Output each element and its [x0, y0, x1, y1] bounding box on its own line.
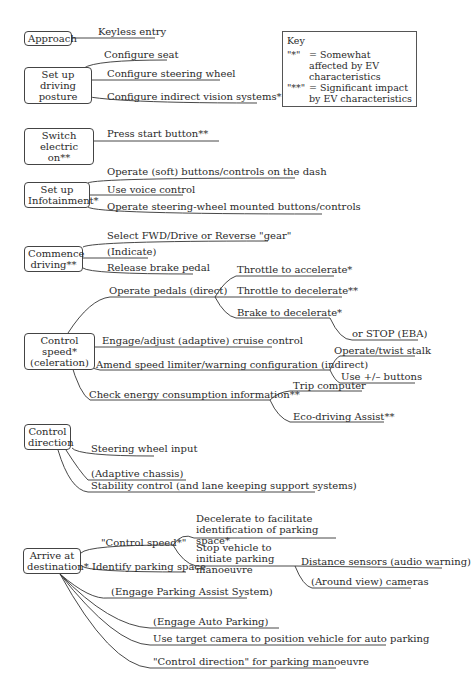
- subtask: (Engage Auto Parking): [153, 616, 268, 627]
- subtask: Throttle to decelerate**: [237, 285, 358, 296]
- subtask: (Indicate): [107, 246, 156, 257]
- subtask: Use voice control: [107, 184, 195, 195]
- subtask: Operate (soft) buttons/controls on the d…: [107, 166, 327, 177]
- subtask: Operate/twist stalk: [334, 345, 431, 356]
- subtask: Configure indirect vision systems*: [107, 91, 282, 102]
- subtask: or STOP (EBA): [352, 328, 427, 339]
- subtask: Stability control (and lane keeping supp…: [91, 480, 357, 491]
- subtask: (Around view) cameras: [311, 576, 429, 587]
- subtask: Keyless entry: [98, 26, 166, 37]
- task-approach: Approach: [24, 31, 72, 46]
- subtask: Configure steering wheel: [107, 68, 236, 79]
- subtask: Amend speed limiter/warning configuratio…: [96, 359, 368, 370]
- subtask: Throttle to accelerate*: [237, 264, 352, 275]
- subtask: "Control direction" for parking manoeuvr…: [153, 656, 369, 667]
- subtask: Brake to decelerate*: [237, 307, 342, 318]
- subtask: (Adaptive chassis): [91, 468, 183, 479]
- key-legend: Key "*"= Somewhat affected by EV charact…: [282, 31, 417, 107]
- key-entry: "*"= Somewhat affected by EV characteris…: [287, 49, 412, 82]
- task-set-up-infotainment: Set up Infotainment*: [24, 182, 90, 208]
- subtask: Operate steering-wheel mounted buttons/c…: [107, 201, 361, 212]
- task-arrive-at-destination: Arrive at destination*: [23, 548, 81, 574]
- task-control-direction: Control direction: [24, 424, 71, 450]
- subtask: Configure seat: [104, 49, 179, 60]
- subtask: Eco-driving Assist**: [293, 411, 394, 422]
- task-control-speed: Control speed* (celeration): [24, 333, 95, 370]
- subtask: Check energy consumption information**: [89, 389, 300, 400]
- subtask: Operate pedals (direct): [109, 285, 227, 296]
- task-set-up-driving-posture: Set up driving posture: [24, 67, 92, 104]
- subtask: Identify parking space: [92, 561, 206, 572]
- subtask: Release brake pedal: [107, 262, 210, 273]
- key-title: Key: [287, 35, 412, 46]
- subtask: Trip computer: [293, 380, 366, 391]
- subtask: (Engage Parking Assist System): [111, 586, 273, 597]
- subtask: Steering wheel input: [91, 443, 197, 454]
- subtask: Select FWD/Drive or Reverse "gear": [107, 230, 291, 241]
- subtask: Distance sensors (audio warning): [301, 556, 471, 567]
- subtask: Engage/adjust (adaptive) cruise control: [102, 335, 303, 346]
- subtask: Press start button**: [107, 128, 208, 139]
- task-switch-electric-on: Switch electric on**: [24, 128, 94, 165]
- subtask: Stop vehicle to initiate parking manoeuv…: [196, 542, 296, 575]
- task-commence-driving: Commence driving**: [24, 246, 83, 272]
- subtask: Use target camera to position vehicle fo…: [153, 633, 429, 644]
- subtask: "Control speed*": [101, 537, 186, 548]
- key-entry: "**"= Significant impact by EV character…: [287, 82, 412, 104]
